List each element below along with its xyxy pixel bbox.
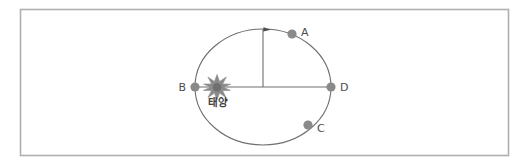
figure-frame	[21, 10, 509, 156]
sun-label: 태양	[208, 96, 228, 108]
orbit-diagram-svg: A B C D 태양	[0, 0, 525, 165]
orbit-point-label-b: B	[178, 81, 186, 94]
orbit-point-d	[326, 82, 335, 91]
orbit-point-label-d: D	[340, 81, 348, 94]
figure-container: A B C D 태양	[0, 0, 525, 165]
orbit-point-a	[287, 29, 296, 38]
orbit-point-label-a: A	[301, 26, 309, 39]
orbit-point-label-c: C	[317, 122, 325, 135]
orbit-point-b	[190, 82, 199, 91]
orbit-point-c	[303, 120, 312, 129]
